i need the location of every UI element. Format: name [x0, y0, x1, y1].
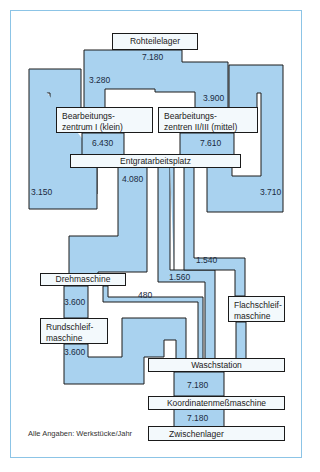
node-bearbeitungszentrum-1: Bearbeitungs- zentrum I (klein): [56, 107, 153, 133]
node-bearbeitungszentren-2-3: Bearbeitungs- zentren II/III (mittel): [158, 107, 258, 133]
flow-flach-wasch: [236, 322, 246, 359]
flow-label-to-bz1: 3.280: [89, 75, 110, 85]
flow-label-loop-right: 3.710: [260, 187, 281, 197]
flow-label-bz23-entgrat: 7.610: [200, 138, 221, 148]
node-drehmaschine: Drehmaschine: [40, 273, 126, 286]
flow-entgrat-wasch-inner: [170, 167, 174, 270]
flow-label-wasch-koord: 7.180: [187, 380, 208, 390]
flow-label-loop-left: 3.150: [31, 187, 52, 197]
node-koordinatenmessmaschine: Koordinatenmeßmaschine: [148, 396, 285, 410]
flow-label-dreh-rund: 3.600: [64, 297, 85, 307]
node-zwischenlager: Zwischenlager: [148, 426, 285, 441]
node-entgratarbeitsplatz: Entgratarbeitsplatz: [70, 154, 241, 168]
units-note: Alle Angaben: Werkstücke/Jahr: [28, 429, 132, 438]
flow-label-entgrat-flach: 1.540: [196, 255, 217, 265]
node-rundschleifmaschine: Rundschleif- maschine: [40, 318, 108, 344]
node-rohteilelager: Rohteilelager: [112, 33, 198, 50]
node-waschstation: Waschstation: [148, 358, 285, 372]
node-flachschleifmaschine: Flachschleif- maschine: [228, 296, 285, 322]
flow-label-roh-out: 7.180: [142, 52, 163, 62]
flow-label-dreh-wasch: 480: [138, 290, 152, 300]
flow-label-rund-wasch: 3.600: [64, 347, 85, 357]
flow-label-entgrat-wasch: 1.560: [169, 272, 190, 282]
flow-label-koord-zwischen: 7.180: [187, 413, 208, 423]
flow-label-entgrat-dreh: 4.080: [122, 174, 143, 184]
flow-label-bz1-entgrat: 6.430: [92, 138, 113, 148]
flow-label-to-bz23: 3.900: [203, 93, 224, 103]
